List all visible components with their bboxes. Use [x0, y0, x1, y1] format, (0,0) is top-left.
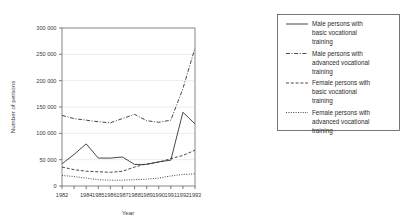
y-tick-label: 100 000: [36, 130, 56, 136]
legend-label-1-line-3: training: [312, 38, 333, 46]
legend-label-4-line-3: training: [312, 127, 333, 135]
legend-label-3-line-3: training: [312, 97, 333, 105]
legend-label-2-line-2: advanced vocational: [312, 59, 369, 66]
chart-figure: 050 000100 000150 000200 000250 000300 0…: [0, 0, 418, 224]
x-tick-label: 1985: [92, 192, 104, 198]
x-tick-label: 1986: [104, 192, 116, 198]
legend-label-1-line-1: Male persons with: [312, 20, 363, 28]
y-tick-label: 150 000: [36, 104, 56, 110]
x-tick-label: 1990: [153, 192, 165, 198]
legend-label-2-line-1: Male persons with: [312, 50, 363, 58]
x-tick-label: 1992: [177, 192, 189, 198]
legend-label-4-line-2: advanced vocational: [312, 118, 369, 125]
x-tick-label: 1993: [189, 192, 201, 198]
x-tick-label: 1988: [128, 192, 140, 198]
legend-label-1-line-2: basic vocational: [312, 29, 357, 36]
y-tick-label: 0: [53, 183, 56, 189]
legend-label-3-line-1: Female persons with: [312, 79, 371, 87]
line-chart: 050 000100 000150 000200 000250 000300 0…: [0, 0, 418, 224]
x-tick-label: 1987: [116, 192, 128, 198]
x-axis-label: Year: [122, 209, 135, 216]
legend-label-3-line-2: basic vocational: [312, 88, 357, 95]
x-tick-label: 1984: [80, 192, 92, 198]
x-tick-label: 1991: [165, 192, 177, 198]
legend-label-4-line-1: Female persons with: [312, 109, 371, 117]
y-tick-label: 50 000: [39, 157, 56, 163]
y-tick-label: 200 000: [36, 78, 56, 84]
y-tick-label: 300 000: [36, 25, 56, 31]
x-tick-label: 1982: [56, 192, 68, 198]
legend-label-2-line-3: training: [312, 68, 333, 76]
x-tick-label: 1989: [140, 192, 152, 198]
y-tick-label: 250 000: [36, 51, 56, 57]
y-axis-label: Number of persons: [9, 81, 16, 134]
